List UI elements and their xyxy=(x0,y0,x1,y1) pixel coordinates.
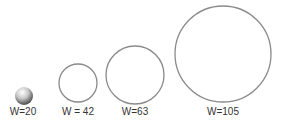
circle-w42 xyxy=(59,64,97,102)
circles-diagram xyxy=(0,0,286,123)
circle-w105 xyxy=(175,6,271,102)
label-w20: W=20 xyxy=(10,106,36,117)
sphere-w20 xyxy=(15,87,33,105)
label-w105: W=105 xyxy=(207,106,239,117)
label-w42: W = 42 xyxy=(62,106,94,117)
circle-w63 xyxy=(106,46,164,104)
label-w63: W=63 xyxy=(122,106,148,117)
